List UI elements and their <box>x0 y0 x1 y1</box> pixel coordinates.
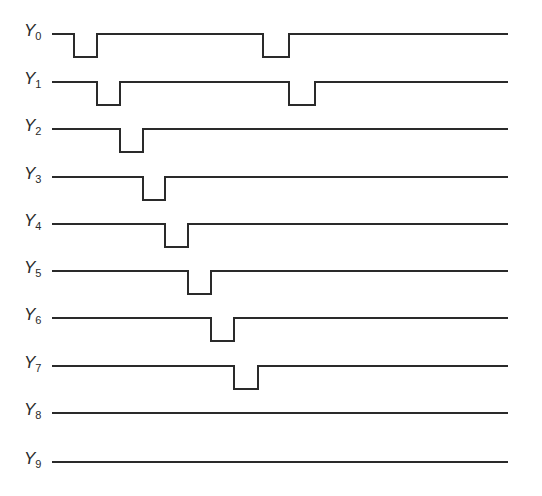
signal-name: Y <box>24 305 35 324</box>
signal-label-y5: Y5 <box>24 259 41 276</box>
signal-label-y0: Y0 <box>24 22 41 39</box>
signal-name: Y <box>24 21 35 40</box>
waveform-y2 <box>52 129 508 152</box>
signal-label-y7: Y7 <box>24 354 41 371</box>
signal-subscript: 8 <box>35 409 41 421</box>
timing-diagram: Y0Y1Y2Y3Y4Y5Y6Y7Y8Y9 <box>0 0 542 496</box>
signal-label-y6: Y6 <box>24 306 41 323</box>
signal-subscript: 1 <box>35 78 41 90</box>
signal-label-y9: Y9 <box>24 450 41 467</box>
signal-name: Y <box>24 164 35 183</box>
signal-subscript: 5 <box>35 267 41 279</box>
signal-name: Y <box>24 69 35 88</box>
waveform-y6 <box>52 318 508 341</box>
waveforms <box>0 0 542 496</box>
waveform-y5 <box>52 271 508 294</box>
signal-subscript: 4 <box>35 220 41 232</box>
signal-subscript: 3 <box>35 173 41 185</box>
signal-label-y8: Y8 <box>24 401 41 418</box>
signal-subscript: 6 <box>35 314 41 326</box>
signal-name: Y <box>24 211 35 230</box>
signal-subscript: 7 <box>35 362 41 374</box>
signal-label-y1: Y1 <box>24 70 41 87</box>
signal-label-y4: Y4 <box>24 212 41 229</box>
signal-label-y3: Y3 <box>24 165 41 182</box>
waveform-y1 <box>52 82 508 105</box>
signal-name: Y <box>24 400 35 419</box>
signal-subscript: 9 <box>35 458 41 470</box>
signal-name: Y <box>24 116 35 135</box>
waveform-y0 <box>52 34 508 57</box>
waveform-y4 <box>52 224 508 247</box>
waveform-y7 <box>52 366 508 389</box>
signal-name: Y <box>24 449 35 468</box>
signal-name: Y <box>24 353 35 372</box>
signal-subscript: 2 <box>35 125 41 137</box>
signal-subscript: 0 <box>35 30 41 42</box>
signal-label-y2: Y2 <box>24 117 41 134</box>
signal-name: Y <box>24 258 35 277</box>
waveform-y3 <box>52 177 508 200</box>
